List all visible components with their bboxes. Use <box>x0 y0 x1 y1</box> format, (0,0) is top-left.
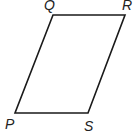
vertex-label-p: P <box>5 116 15 132</box>
vertex-label-r: R <box>122 0 132 13</box>
vertex-label-q: Q <box>44 0 55 13</box>
vertex-label-s: S <box>84 118 94 134</box>
parallelogram-pqrs <box>15 15 125 113</box>
parallelogram-diagram: Q R S P <box>0 0 137 136</box>
